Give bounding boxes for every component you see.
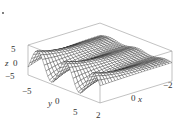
corner-mark: [2, 12, 4, 14]
surface-plot: 5 0 −5 z −5 0 5 y 2 0 −2 x: [0, 0, 173, 119]
z-tick-0: 0: [13, 58, 18, 68]
z-tick-5: 5: [11, 44, 16, 54]
x-axis-label: x: [137, 94, 142, 104]
z-axis: 5 0 −5 z: [4, 44, 18, 81]
x-axis: 2 0 −2 x: [96, 80, 173, 119]
x-tick-neg2: −2: [163, 80, 173, 90]
y-tick-0: 0: [55, 96, 60, 106]
y-tick-neg5: −5: [22, 86, 32, 96]
y-axis-label: y: [47, 98, 52, 108]
y-axis: −5 0 5 y: [22, 86, 78, 117]
x-tick-0: 0: [131, 93, 136, 103]
x-tick-2: 2: [96, 110, 101, 119]
y-tick-5: 5: [73, 107, 78, 117]
z-axis-label: z: [4, 58, 9, 68]
z-tick-neg5: −5: [5, 71, 15, 81]
